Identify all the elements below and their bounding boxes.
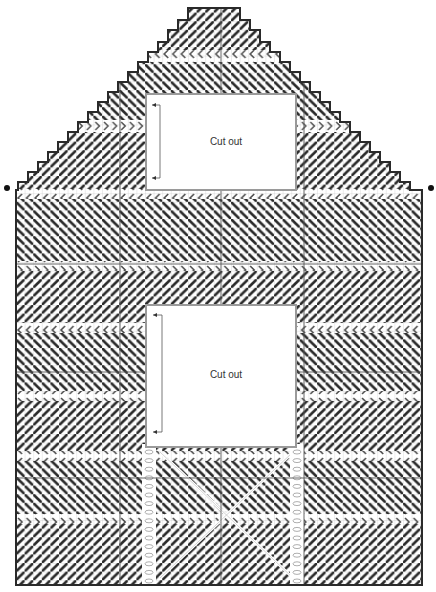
- stitch-area: [0, 0, 436, 592]
- roof-band-1: [0, 8, 436, 50]
- door-frame-left: [142, 444, 156, 586]
- canvas-chart: [0, 0, 436, 592]
- band-1: [0, 199, 436, 261]
- left-eave-dot: [4, 185, 10, 191]
- upper-cutout-label: Cut out: [196, 136, 256, 147]
- band-6: [0, 524, 436, 585]
- lower-cutout-label: Cut out: [196, 369, 256, 380]
- arrow-row: [0, 451, 436, 461]
- right-eave-dot: [428, 185, 434, 191]
- door-frame-right: [290, 444, 304, 586]
- roof-arrow-row: [0, 50, 436, 62]
- arrow-row: [0, 261, 436, 271]
